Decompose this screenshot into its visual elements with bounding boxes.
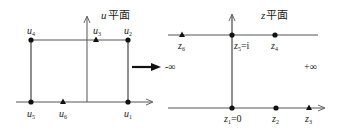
point-z1	[229, 105, 234, 110]
label-u5: u5	[27, 108, 35, 120]
point-z5	[229, 32, 234, 37]
point-z4	[272, 32, 277, 37]
label-u4: u4	[27, 25, 35, 37]
label-z3: z3	[304, 113, 312, 125]
u-plane-panel: u平面 u1 u2 u3 u4 u5 u6	[16, 9, 153, 120]
label-z4: z4	[270, 40, 278, 52]
z-plane-title: z平面	[260, 9, 288, 21]
point-z6-triangle-icon	[179, 32, 185, 38]
z-plane-panel: z平面 -∞ +∞ z1=0 z2 z3 z4 z5=i z6	[165, 9, 325, 125]
point-u3-triangle-icon	[93, 37, 99, 43]
point-z3-triangle-icon	[306, 105, 312, 111]
label-z6: z6	[177, 40, 185, 52]
mapping-arrow-icon	[132, 63, 161, 71]
point-u1	[125, 99, 130, 104]
point-u6-triangle-icon	[60, 99, 66, 105]
minus-infinity-label: -∞	[165, 61, 175, 72]
label-u2: u2	[124, 25, 132, 37]
label-u3: u3	[93, 25, 101, 37]
point-u5	[28, 99, 33, 104]
point-u2	[125, 37, 130, 42]
plus-infinity-label: +∞	[304, 61, 317, 72]
label-u6: u6	[59, 108, 67, 120]
label-z5: z5=i	[233, 40, 250, 52]
point-u4	[28, 37, 33, 42]
label-u1: u1	[124, 108, 132, 120]
conformal-mapping-diagram: u平面 u1 u2 u3 u4 u5 u6	[0, 0, 339, 131]
label-z1: z1=0	[223, 113, 242, 125]
label-z2: z2	[271, 113, 279, 125]
u-plane-title: u平面	[101, 9, 130, 21]
point-z2	[273, 105, 278, 110]
